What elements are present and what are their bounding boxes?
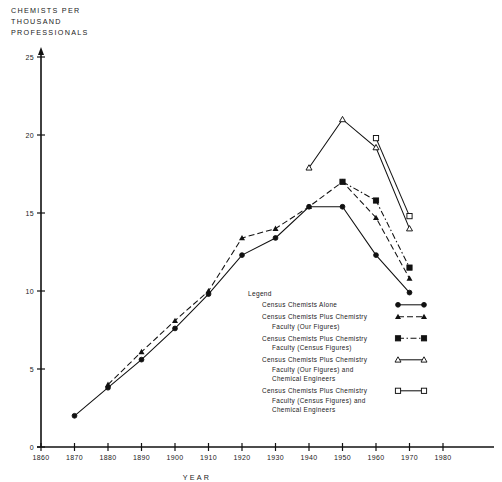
legend-item-label: Chemical Engineers	[272, 375, 336, 383]
series-line	[309, 119, 410, 228]
legend-symbol	[395, 357, 427, 362]
legend-symbol	[395, 336, 426, 341]
legend-item-label: Faculty (Our Figures)	[272, 323, 340, 331]
legend-symbol	[395, 388, 426, 393]
chart-container: CHEMISTS PERTHOUSANDPROFESSIONALS0510152…	[0, 0, 502, 482]
data-point	[340, 116, 346, 121]
data-point	[407, 214, 412, 219]
y-axis-arrow	[38, 47, 44, 55]
x-axis-ticks: 1860187018801890190019101920193019401950…	[32, 443, 451, 461]
chart-legend: LegendCensus Chemists AloneCensus Chemis…	[248, 290, 427, 414]
x-tick-label: 1950	[334, 454, 351, 461]
y-tick-label: 0	[30, 444, 34, 451]
legend-item-label: Census Chemists Alone	[262, 301, 337, 308]
data-point	[407, 290, 412, 295]
y-tick-label: 15	[25, 210, 34, 217]
legend-item-label: Faculty (Census Figures) and	[272, 397, 366, 405]
series-line	[108, 182, 410, 385]
x-tick-label: 1970	[401, 454, 418, 461]
x-tick-label: 1920	[233, 454, 250, 461]
legend-marker	[395, 388, 400, 393]
chart-title-line: CHEMISTS PER	[11, 6, 81, 15]
legend-item-label: Chemical Engineers	[272, 406, 336, 414]
legend-item-label: Census Chemists Plus Chemistry	[262, 335, 368, 343]
y-tick-label: 10	[25, 288, 34, 295]
data-point	[206, 288, 212, 293]
y-tick-label: 25	[25, 54, 34, 61]
legend-marker	[422, 302, 427, 307]
legend-marker	[396, 302, 401, 307]
x-tick-label: 1890	[133, 454, 150, 461]
x-tick-label: 1940	[300, 454, 317, 461]
data-point	[374, 253, 379, 258]
data-point	[373, 136, 378, 141]
data-point	[72, 413, 77, 418]
y-axis-ticks: 0510152025	[25, 54, 45, 451]
data-point	[173, 326, 178, 331]
x-tick-label: 1960	[367, 454, 384, 461]
x-tick-label: 1860	[32, 454, 49, 461]
legend-item-label: Census Chemists Plus Chemistry	[262, 387, 368, 395]
data-point	[340, 204, 345, 209]
data-point	[273, 236, 278, 241]
data-point	[340, 179, 345, 184]
legend-marker	[421, 336, 426, 341]
legend-marker	[395, 336, 400, 341]
series-3	[306, 116, 413, 230]
x-tick-label: 1900	[166, 454, 183, 461]
series-4	[373, 136, 412, 219]
x-axis-label: YEAR	[183, 473, 211, 482]
data-point	[240, 253, 245, 258]
data-point	[139, 357, 144, 362]
data-point	[373, 198, 378, 203]
x-tick-label: 1880	[99, 454, 116, 461]
chart-title-line: PROFESSIONALS	[11, 28, 89, 37]
x-tick-label: 1910	[200, 454, 217, 461]
line-chart: CHEMISTS PERTHOUSANDPROFESSIONALS0510152…	[0, 0, 502, 482]
legend-item-label: Faculty (Census Figures)	[272, 344, 352, 352]
data-point	[273, 226, 279, 231]
chart-title: CHEMISTS PERTHOUSANDPROFESSIONALS	[11, 6, 89, 37]
legend-symbol	[396, 302, 427, 307]
legend-marker	[421, 388, 426, 393]
legend-symbol	[395, 314, 427, 319]
x-tick-label: 1930	[267, 454, 284, 461]
data-point	[407, 226, 413, 231]
legend-title: Legend	[248, 290, 272, 298]
legend-item-label: Census Chemists Plus Chemistry	[262, 313, 368, 321]
y-tick-label: 20	[25, 132, 34, 139]
series-line	[376, 138, 410, 216]
legend-item-label: Census Chemists Plus Chemistry	[262, 356, 368, 364]
x-tick-label: 1870	[66, 454, 83, 461]
y-tick-label: 5	[30, 366, 34, 373]
data-point	[407, 276, 413, 281]
chart-title-line: THOUSAND	[11, 17, 62, 26]
legend-item-label: Faculty (Our Figures) and	[272, 366, 354, 374]
x-tick-label: 1980	[434, 454, 451, 461]
data-point	[407, 265, 412, 270]
